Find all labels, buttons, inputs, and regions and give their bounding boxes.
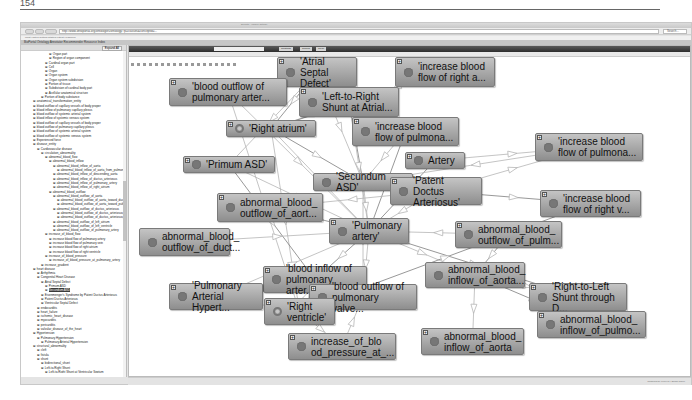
graph-node-ltr[interactable]: +'Left-to-Right Shunt at Atrial... — [299, 87, 399, 117]
graph-node-ibf-rv[interactable]: +'increase blood flow of right v... — [540, 190, 641, 217]
navigation-bar: http://www.ontoportal.org/ontologies/ont… — [21, 28, 691, 35]
node-label: 'increase blood flow of pulmona... — [375, 121, 453, 143]
graph-node-abi-aorta2[interactable]: +abnormal_blood_ inflow_of_aorta — [421, 328, 524, 355]
node-label: 'Pulmonary artery' — [352, 220, 402, 242]
expand-node-icon[interactable]: + — [185, 158, 190, 163]
node-class-icon — [272, 275, 281, 284]
graph-node-ibf-pu2[interactable]: +'increase blood flow of pulmona... — [535, 133, 643, 161]
node-label: 'Right ventricle' — [287, 301, 326, 323]
expand-node-icon[interactable]: + — [457, 223, 462, 228]
node-class-icon — [464, 230, 473, 239]
node-class-icon — [546, 320, 555, 329]
expand-node-icon[interactable]: + — [311, 286, 316, 291]
expand-node-icon[interactable]: + — [331, 220, 336, 225]
expand-node-icon[interactable]: + — [171, 285, 176, 290]
node-label: 'Atrial Septal Defect' — [300, 56, 352, 89]
clear-button[interactable]: Clear — [316, 47, 326, 51]
node-label: abnormal_blood_ inflow_of_aorta... — [448, 264, 525, 286]
browser-window: BioPortal - Visualize Ontology http://ww… — [20, 22, 692, 385]
node-class-icon — [178, 292, 187, 301]
node-label: 'blood outflow of pulmonary valve... — [332, 281, 412, 314]
graph-node-ibf-pu[interactable]: +'increase blood flow of pulmona... — [352, 117, 459, 146]
graph-node-abi-aorta1[interactable]: abnormal_blood_ inflow_of_aorta... — [425, 262, 525, 288]
scroll-thumb[interactable] — [123, 181, 126, 241]
graph-node-rtl[interactable]: +'Right-to-Left Shunt through D... — [529, 283, 627, 311]
graph-panel: Contains Search Clear +'Atrial Septal De… — [128, 45, 691, 377]
node-class-icon — [286, 68, 295, 77]
graph-node-abo-pulm[interactable]: +abnormal_blood_ outflow_of_pulm... — [455, 221, 562, 248]
tree-item[interactable]: ⊞ Left-to-Right Shunt at Ventricular Sep… — [21, 370, 126, 373]
expand-node-icon[interactable]: + — [228, 122, 233, 127]
node-class-icon — [549, 199, 558, 208]
graph-node-abo-duct[interactable]: abnormal_blood_ outflow_of_duct... — [139, 228, 230, 256]
node-label: 'Right atrium' — [249, 123, 307, 134]
header-rule — [20, 9, 660, 10]
graph-node-pah[interactable]: +'Pulmonary Arterial Hypert... — [169, 283, 263, 310]
graph-node-asd[interactable]: +'Atrial Septal Defect' — [277, 57, 357, 87]
node-label: 'Primum ASD' — [206, 159, 267, 170]
tree-scrollbar[interactable] — [123, 51, 126, 377]
expand-node-icon[interactable]: + — [397, 59, 402, 64]
back-button[interactable] — [25, 29, 34, 34]
node-label: 'increase blood flow of right a... — [418, 61, 486, 83]
expand-all-button[interactable]: Expand All — [102, 46, 122, 51]
node-class-icon — [235, 124, 244, 133]
expand-node-icon[interactable]: + — [265, 268, 270, 273]
graph-canvas[interactable]: +'Atrial Septal Defect'+'increase blood … — [129, 57, 690, 377]
expand-node-icon[interactable]: + — [290, 335, 295, 340]
expand-node-icon[interactable]: + — [531, 285, 536, 290]
node-label: Artery — [428, 155, 455, 166]
node-class-icon — [538, 293, 547, 302]
graph-node-rv[interactable]: +'Right ventricle' — [264, 298, 335, 325]
home-button[interactable] — [45, 29, 57, 34]
browser-search-input[interactable]: Search... — [663, 29, 687, 34]
graph-node-abo-aort[interactable]: +abnormal_blood_ outflow_of_aort... — [217, 193, 323, 222]
node-class-icon — [404, 68, 413, 77]
node-label: 'Patent Doctus Arteriosus' — [413, 175, 477, 208]
graph-node-ra[interactable]: +'Right atrium' — [226, 120, 316, 137]
node-class-icon — [399, 187, 408, 196]
expand-node-icon[interactable]: + — [537, 135, 542, 140]
node-label: 'Pulmonary Arterial Hypert... — [192, 280, 258, 313]
node-class-icon — [273, 307, 282, 316]
node-class-icon — [322, 178, 331, 187]
graph-search-input[interactable] — [214, 47, 264, 51]
node-class-icon — [430, 337, 439, 346]
node-class-icon — [414, 156, 423, 165]
graph-node-artery[interactable]: +Artery — [405, 152, 465, 169]
class-tree[interactable]: ⊞ Organ part⊞ Region of organ component⊞… — [21, 51, 126, 373]
node-class-icon — [308, 98, 317, 107]
expand-node-icon[interactable]: + — [542, 192, 547, 197]
expand-node-icon[interactable]: + — [171, 80, 176, 85]
expand-node-icon[interactable]: + — [354, 119, 359, 124]
status-text: Powered by FlexViz | Zoom 100% — [647, 380, 685, 383]
node-class-icon — [338, 227, 347, 236]
graph-node-bo-pa[interactable]: +'blood outflow of pulmonary arter... — [169, 78, 287, 106]
expand-node-icon[interactable]: + — [301, 89, 306, 94]
node-label: abnormal_blood_ outflow_of_aort... — [240, 197, 317, 219]
graph-node-inc-bp[interactable]: +increase_of_blo od_pressure_at_... — [288, 333, 396, 360]
expand-node-icon[interactable]: + — [407, 154, 412, 159]
node-class-icon — [297, 342, 306, 351]
node-label: increase_of_blo od_pressure_at_... — [311, 336, 394, 358]
graph-node-ibf-ra[interactable]: +'increase blood flow of right a... — [395, 57, 495, 87]
expand-node-icon[interactable]: + — [392, 179, 397, 184]
graph-node-abi-pulmo[interactable]: +abnormal_blood_ inflow_of_pulmo... — [537, 311, 646, 338]
expand-node-icon[interactable]: + — [423, 330, 428, 335]
contains-button[interactable]: Contains — [279, 47, 293, 51]
graph-node-primum[interactable]: +'Primum ASD' — [183, 156, 275, 173]
expand-node-icon[interactable]: + — [279, 59, 284, 64]
expand-node-icon[interactable]: + — [219, 195, 224, 200]
node-class-icon — [226, 203, 235, 212]
forward-button[interactable] — [35, 29, 44, 34]
search-button[interactable]: Search — [300, 47, 312, 51]
node-class-icon — [361, 127, 370, 136]
url-field[interactable]: http://www.ontoportal.org/ontologies/ont… — [59, 29, 659, 34]
expand-node-icon[interactable]: + — [266, 300, 271, 305]
graph-node-pa[interactable]: +'Pulmonary artery' — [329, 218, 409, 244]
node-class-icon — [434, 271, 443, 280]
expand-node-icon[interactable]: + — [539, 313, 544, 318]
graph-node-pda[interactable]: +'Patent Doctus Arteriosus' — [390, 177, 482, 205]
node-label: abnormal_blood_ outflow_of_duct... — [162, 231, 240, 253]
node-class-icon — [192, 160, 201, 169]
